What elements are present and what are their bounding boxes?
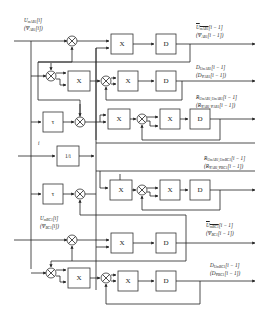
output-label-mean-ab1: UmAB1[i − 1] (ΨAB1[i − 1]) bbox=[196, 24, 223, 40]
multiplier-node bbox=[137, 114, 147, 124]
multiplier-block-label: X bbox=[116, 115, 121, 123]
input-label-bc1: UmBC1[i] (ΨBC1[i]) bbox=[40, 215, 59, 231]
delay-block-label: D bbox=[163, 239, 168, 247]
multiplier-block-label: X bbox=[167, 186, 172, 194]
multiplier-block-label: X bbox=[76, 77, 81, 85]
multiplier-block-label: X bbox=[125, 77, 130, 85]
delay-block-label: D bbox=[163, 77, 168, 85]
multiplier-node bbox=[67, 36, 77, 46]
multiplier-node bbox=[137, 185, 147, 195]
multiplier-node bbox=[101, 76, 111, 86]
output-label-crosscorr: RUmAB1,UmBC1[i − 1] (RΨAB1,ΨBC1[i − 1]) bbox=[204, 155, 245, 171]
delay-block-label: D bbox=[197, 115, 202, 123]
multiplier-node bbox=[75, 117, 85, 127]
multiplier-node bbox=[101, 273, 111, 283]
multiplier-node bbox=[75, 189, 85, 199]
output-label-autocorr-ab1: RUmAB1,UmAB1[i − 1] (RΨAB1,ΨAB1[i − 1]) bbox=[196, 94, 237, 110]
delay-block-label: D bbox=[197, 186, 202, 194]
delay-block-label: D bbox=[163, 40, 168, 48]
multiplier-block-label: X bbox=[119, 40, 124, 48]
multiplier-block-label: X bbox=[119, 239, 124, 247]
block-diagram: X D X X D τ X X bbox=[0, 0, 269, 320]
multiplier-node bbox=[67, 235, 77, 245]
reciprocal-block-label: 1/i bbox=[65, 153, 71, 159]
multiplier-node bbox=[46, 268, 56, 278]
multiplier-block-label: X bbox=[167, 115, 172, 123]
multiplier-node bbox=[46, 71, 56, 81]
multiplier-block-label: X bbox=[118, 186, 123, 194]
output-label-mean-bc1: UmBC1[i − 1] (ΨBC1[i − 1]) bbox=[206, 222, 234, 238]
output-label-dispersion-bc1: DUmBC1[i − 1] (DΨBC1[i − 1]) bbox=[210, 262, 240, 278]
input-label-index: i bbox=[38, 140, 39, 146]
multiplier-block-label: X bbox=[125, 277, 130, 285]
shift-block-label: τ bbox=[52, 190, 55, 198]
output-label-dispersion-ab1: DUmAB1[i − 1] (DΨAB1[i − 1]) bbox=[196, 64, 226, 80]
input-label-ab1: UmAB1[i] (ΨAB1[i]) bbox=[24, 17, 43, 33]
multiplier-block-label: X bbox=[76, 274, 81, 282]
shift-block-label: τ bbox=[52, 118, 55, 126]
delay-block-label: D bbox=[163, 277, 168, 285]
